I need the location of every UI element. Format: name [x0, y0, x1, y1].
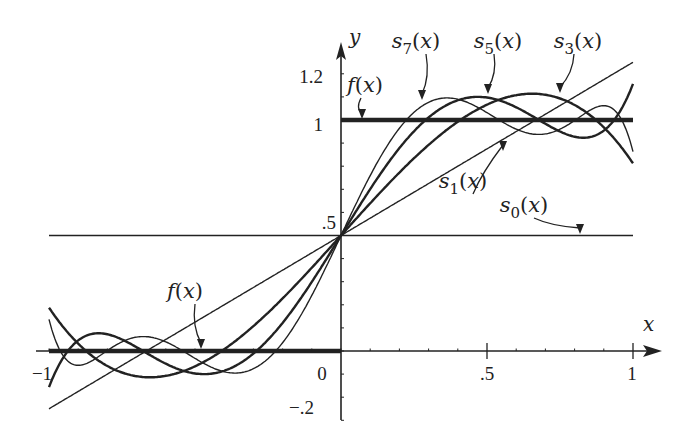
svg-text:f(x): f(x): [165, 279, 203, 303]
arrowhead-icon: [484, 84, 492, 94]
arrowhead-icon: [576, 224, 584, 234]
arrowhead-icon: [418, 90, 426, 100]
annotation-s3: s3(x): [554, 29, 603, 93]
annotation-f: f(x): [165, 279, 205, 349]
annotation-arrow: [488, 54, 495, 88]
y-axis-label: y: [348, 25, 361, 49]
x-tick-label-1: 1: [627, 363, 637, 384]
svg-text:s3(x): s3(x): [554, 29, 603, 58]
annotation-s5: s5(x): [474, 29, 523, 94]
x-tick-label-0: 0: [317, 363, 327, 384]
annotation-arrow: [194, 304, 201, 343]
annotation-s1: s1(x): [439, 141, 507, 198]
svg-text:s1(x): s1(x): [439, 169, 488, 198]
svg-text:s7(x): s7(x): [392, 29, 441, 58]
y-tick-label-half: .5: [322, 212, 336, 233]
annotation-arrow: [560, 54, 574, 87]
annotation-arrow: [534, 218, 580, 228]
legendre-approximation-plot: −10.511.21.5−.2xy f(x)f(x)s7(x)s5(x)s3(x…: [0, 0, 682, 444]
svg-text:f(x): f(x): [345, 73, 383, 97]
annotation-s0: s0(x): [500, 193, 584, 234]
annotation-arrow: [422, 54, 427, 94]
x-tick-label-neg1: −1: [32, 363, 52, 384]
arrowhead-icon: [197, 339, 205, 349]
annotation-f: f(x): [345, 73, 383, 119]
svg-text:s0(x): s0(x): [500, 193, 549, 222]
x-tick-label-half: .5: [480, 363, 494, 384]
annotation-s7: s7(x): [392, 29, 441, 100]
x-axis-label: x: [643, 312, 654, 336]
arrowhead-icon: [358, 109, 366, 119]
y-tick-label-neg-2: −.2: [289, 397, 314, 418]
arrowhead-icon: [556, 83, 564, 93]
svg-text:s5(x): s5(x): [474, 29, 523, 58]
y-tick-label-1: 1: [314, 114, 324, 135]
y-tick-label-1-2: 1.2: [299, 66, 323, 87]
